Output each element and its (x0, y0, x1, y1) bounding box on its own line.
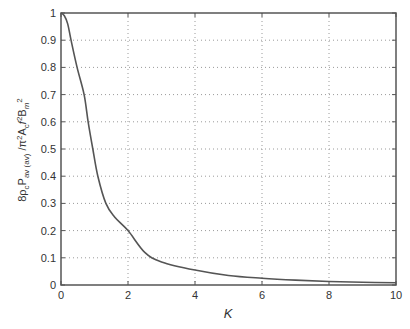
line-chart: 0246810 00.10.20.30.40.50.60.70.80.91 K … (0, 0, 410, 329)
y-tick-label: 0.2 (41, 225, 56, 237)
x-tick-label: 6 (259, 289, 265, 301)
x-tick-label: 8 (326, 289, 332, 301)
x-tick-label: 4 (192, 289, 198, 301)
y-tick-label: 0.1 (41, 252, 56, 264)
y-tick-label: 0.4 (41, 170, 56, 182)
y-tick-label: 0.7 (41, 89, 56, 101)
y-tick-label: 0.5 (41, 143, 56, 155)
y-tick-label: 0 (50, 279, 56, 291)
x-tick-label: 0 (58, 289, 64, 301)
series-line (61, 13, 396, 283)
y-tick-label: 0.9 (41, 34, 56, 46)
x-tick-label: 2 (125, 289, 131, 301)
grid-lines (61, 13, 396, 285)
y-tick-label: 0.8 (41, 61, 56, 73)
x-axis-label: K (224, 306, 234, 321)
data-series (61, 13, 396, 283)
y-tick-label: 0.3 (41, 197, 56, 209)
y-axis-label: 8ρcPav (av) /π2Acf2Bm2 (15, 98, 31, 202)
y-tick-label: 0.6 (41, 116, 56, 128)
y-tick-label: 1 (50, 7, 56, 19)
x-tick-label: 10 (390, 289, 402, 301)
